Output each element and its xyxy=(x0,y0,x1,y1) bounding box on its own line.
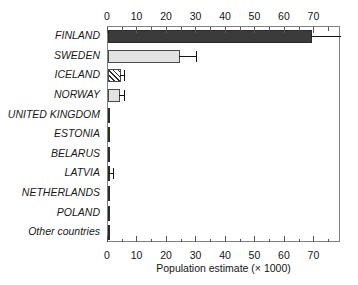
major-tick xyxy=(166,27,167,33)
minor-tick xyxy=(210,239,211,243)
error-bar-line xyxy=(311,36,341,37)
major-tick xyxy=(136,236,137,242)
x-tick-label: 50 xyxy=(249,10,261,22)
minor-tick xyxy=(181,27,182,31)
minor-tick xyxy=(151,239,152,243)
top-x-axis: 010203040506070 xyxy=(107,26,340,27)
x-tick-label: 0 xyxy=(104,10,110,22)
category-label: ESTONIA xyxy=(54,124,100,144)
bar-row xyxy=(108,184,339,204)
major-tick xyxy=(107,236,108,242)
error-bar-cap xyxy=(124,90,125,101)
bar-row xyxy=(108,145,339,165)
x-tick-label: 40 xyxy=(219,249,231,261)
bar xyxy=(108,108,110,123)
category-label: SWEDEN xyxy=(54,46,100,66)
major-tick xyxy=(225,27,226,33)
minor-tick xyxy=(240,239,241,243)
major-tick xyxy=(284,236,285,242)
x-tick-label: 60 xyxy=(278,249,290,261)
x-axis-title: Population estimate (× 1000) xyxy=(107,262,340,274)
major-tick xyxy=(166,236,167,242)
bar xyxy=(108,225,110,240)
category-label: Other countries xyxy=(28,222,100,242)
minor-tick xyxy=(240,27,241,31)
x-tick-label: 20 xyxy=(160,10,172,22)
bar-row xyxy=(108,86,339,106)
bar xyxy=(108,147,110,162)
category-label: NETHERLANDS xyxy=(22,183,100,203)
category-label: POLAND xyxy=(57,203,100,223)
minor-tick xyxy=(269,239,270,243)
bottom-x-axis: 010203040506070 xyxy=(107,242,340,243)
x-tick-label: 10 xyxy=(131,249,143,261)
x-tick-label: 30 xyxy=(190,10,202,22)
minor-tick xyxy=(299,239,300,243)
bar-row xyxy=(108,125,339,145)
x-tick-label: 60 xyxy=(278,10,290,22)
bar-row xyxy=(108,223,339,243)
bar xyxy=(108,30,312,43)
error-bar-line xyxy=(179,56,196,57)
major-tick xyxy=(136,27,137,33)
category-label: LATVIA xyxy=(65,163,100,183)
error-bar-cap xyxy=(113,168,114,179)
minor-tick xyxy=(122,239,123,243)
major-tick xyxy=(195,236,196,242)
category-label: ICELAND xyxy=(54,65,100,85)
minor-tick xyxy=(328,27,329,31)
bar-row xyxy=(108,27,339,47)
category-label: UNITED KINGDOM xyxy=(8,105,100,125)
bar xyxy=(108,127,110,142)
bar xyxy=(108,206,110,221)
bar-row xyxy=(108,204,339,224)
minor-tick xyxy=(210,27,211,31)
bar xyxy=(108,50,180,63)
major-tick xyxy=(254,236,255,242)
error-bar-cap xyxy=(196,51,197,62)
x-tick-label: 70 xyxy=(308,249,320,261)
minor-tick xyxy=(328,239,329,243)
category-label: FINLAND xyxy=(55,26,100,46)
bar-row xyxy=(108,164,339,184)
bar-row xyxy=(108,47,339,67)
error-bar-cap xyxy=(124,70,125,81)
x-tick-label: 20 xyxy=(160,249,172,261)
bar xyxy=(108,186,110,201)
x-tick-label: 0 xyxy=(104,249,110,261)
minor-tick xyxy=(299,27,300,31)
major-tick xyxy=(254,27,255,33)
major-tick xyxy=(225,236,226,242)
x-tick-label: 70 xyxy=(308,10,320,22)
x-tick-label: 10 xyxy=(131,10,143,22)
horizontal-bar-chart: FINLANDSWEDENICELANDNORWAYUNITED KINGDOM… xyxy=(0,0,358,285)
category-label: BELARUS xyxy=(51,144,100,164)
category-axis-labels: FINLANDSWEDENICELANDNORWAYUNITED KINGDOM… xyxy=(0,26,104,242)
category-label: NORWAY xyxy=(54,85,100,105)
bar-row xyxy=(108,106,339,126)
major-tick xyxy=(284,27,285,33)
bar-row xyxy=(108,66,339,86)
x-tick-label: 50 xyxy=(249,249,261,261)
minor-tick xyxy=(269,27,270,31)
major-tick xyxy=(313,236,314,242)
minor-tick xyxy=(181,239,182,243)
major-tick xyxy=(195,27,196,33)
minor-tick xyxy=(122,27,123,31)
minor-tick xyxy=(151,27,152,31)
x-tick-label: 40 xyxy=(219,10,231,22)
major-tick xyxy=(107,27,108,33)
plot-area xyxy=(107,26,340,242)
major-tick xyxy=(313,27,314,33)
x-tick-label: 30 xyxy=(190,249,202,261)
